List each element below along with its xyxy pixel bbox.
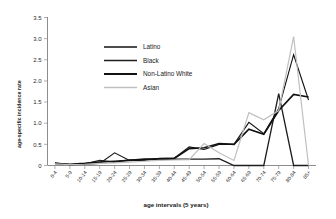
y-tick-group: 3.53.02.52.01.51.00.50 bbox=[33, 15, 47, 169]
x-tick-label: 85+ bbox=[302, 169, 312, 180]
y-tick-label: 3.0 bbox=[33, 36, 42, 42]
y-tick-label: 0 bbox=[38, 163, 42, 169]
x-tick-label: 70-74 bbox=[254, 169, 267, 183]
series-group bbox=[55, 37, 309, 166]
y-axis-title: age-specific incidence rate bbox=[16, 80, 22, 148]
x-tick-label: 30-34 bbox=[135, 169, 148, 183]
series-line-asian bbox=[55, 37, 309, 166]
x-tick-label: 0-4 bbox=[49, 169, 58, 179]
chart-container: age-specific incidence rate 3.53.02.52.0… bbox=[0, 0, 336, 219]
legend-label-latino: Latino bbox=[143, 43, 161, 50]
y-tick-label: 1.5 bbox=[33, 99, 42, 105]
x-tick-group: 0-45-910-1415-1920-2425-2930-3435-3940-4… bbox=[49, 166, 312, 184]
x-tick-label: 20-24 bbox=[105, 169, 118, 183]
x-tick-label: 50-54 bbox=[195, 169, 208, 183]
x-tick-label: 5-9 bbox=[64, 169, 73, 179]
legend-label-black: Black bbox=[143, 57, 159, 64]
x-tick-label: 60-64 bbox=[224, 169, 237, 183]
legend-label-asian: Asian bbox=[143, 84, 159, 91]
x-tick-label: 10-14 bbox=[75, 169, 88, 183]
x-tick-label: 25-29 bbox=[120, 169, 133, 183]
x-tick-label: 40-44 bbox=[165, 169, 178, 183]
y-tick-label: 3.5 bbox=[33, 15, 42, 21]
x-tick-label: 45-49 bbox=[180, 169, 193, 183]
x-tick-label: 75-79 bbox=[269, 169, 282, 183]
y-tick-label: 2.5 bbox=[33, 57, 42, 63]
y-tick-label: 1.0 bbox=[33, 120, 42, 126]
series-line-non-latino-white bbox=[55, 94, 309, 164]
chart-legend: LatinoBlackNon-Latino WhiteAsian bbox=[104, 43, 193, 91]
y-tick-label: 2.0 bbox=[33, 78, 42, 84]
x-tick-label: 35-39 bbox=[150, 169, 163, 183]
series-line-black bbox=[55, 94, 309, 166]
line-chart: age-specific incidence rate 3.53.02.52.0… bbox=[0, 0, 336, 219]
x-tick-label: 80-84 bbox=[284, 169, 297, 183]
legend-label-non-latino-white: Non-Latino White bbox=[143, 70, 193, 77]
x-tick-label: 55-59 bbox=[209, 169, 222, 183]
x-axis-title: age intervals (5 years) bbox=[143, 201, 208, 208]
x-tick-label: 65-69 bbox=[239, 169, 252, 183]
y-tick-label: 0.5 bbox=[33, 142, 42, 148]
x-tick-label: 15-19 bbox=[90, 169, 103, 183]
